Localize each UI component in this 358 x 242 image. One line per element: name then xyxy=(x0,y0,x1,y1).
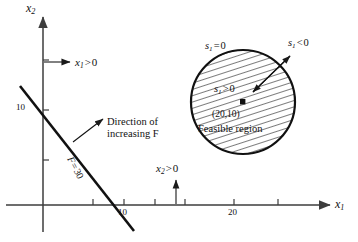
s1-positive-value: 0 xyxy=(230,83,235,94)
y-axis-label-sub: 2 xyxy=(31,7,35,16)
x-axis-label: x1 xyxy=(335,198,344,212)
x1-positive-operator: > xyxy=(84,56,92,68)
s1-positive-operator: > xyxy=(222,83,230,94)
x-axis-label-sub: 1 xyxy=(340,203,344,212)
optimum-point-label: (20,10) xyxy=(212,110,240,120)
direction-line-1: Direction of xyxy=(107,116,158,127)
s1-negative-label: s1<0 xyxy=(288,38,309,50)
y-axis-label: x2 xyxy=(26,2,35,16)
x-axis-ticks xyxy=(93,199,278,205)
y-axis-tick-label-10: 10 xyxy=(16,103,25,112)
x2-positive-operator: > xyxy=(165,162,173,174)
direction-increasing-f-arrow xyxy=(73,119,103,142)
x1-positive-value: 0 xyxy=(92,56,98,68)
x-axis-tick-label-10: 10 xyxy=(118,208,127,217)
x2-positive-value: 0 xyxy=(173,162,179,174)
x2-positive-label: x2>0 xyxy=(156,163,178,176)
s1-zero-value: 0 xyxy=(221,40,226,51)
s1-positive-label: s1>0 xyxy=(214,84,235,96)
y-axis-ticks xyxy=(43,60,49,160)
s1-zero-operator: = xyxy=(213,40,221,51)
x-axis-tick-label-20: 20 xyxy=(228,208,237,217)
s1-negative-operator: < xyxy=(296,37,304,48)
s1-zero-label: s1=0 xyxy=(205,41,226,53)
feasible-region-label: Feasible region xyxy=(198,124,262,135)
optimum-point-marker xyxy=(240,99,245,104)
linear-programming-diagram: x2 x1 10 10 20 x1>0 x2>0 Direction ofinc… xyxy=(0,0,358,242)
direction-increasing-f-label: Direction ofincreasing F xyxy=(107,116,159,141)
x1-positive-label: x1>0 xyxy=(75,57,97,70)
s1-negative-value: 0 xyxy=(304,37,309,48)
direction-line-2: increasing F xyxy=(107,128,159,139)
